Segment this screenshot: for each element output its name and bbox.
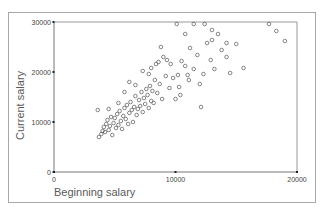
data-point — [148, 84, 152, 88]
data-point — [158, 82, 162, 86]
data-point — [109, 115, 113, 119]
data-point — [141, 69, 145, 73]
data-point — [169, 62, 173, 66]
data-point — [142, 96, 146, 100]
data-point — [165, 58, 169, 62]
data-point — [126, 122, 130, 126]
data-point — [213, 67, 217, 71]
data-point — [118, 109, 122, 113]
data-point — [141, 110, 145, 114]
data-point — [149, 99, 153, 103]
data-point — [111, 133, 115, 137]
data-point — [175, 22, 179, 26]
data-point — [120, 127, 124, 131]
data-point — [177, 85, 181, 89]
data-point — [187, 78, 191, 82]
data-point — [176, 73, 180, 77]
data-point — [160, 97, 164, 101]
data-point — [234, 42, 238, 46]
y-tick-label: 0 — [47, 169, 51, 176]
x-tick-label: 10000 — [166, 176, 186, 183]
data-point — [143, 102, 147, 106]
data-point — [180, 59, 184, 63]
data-point — [132, 105, 136, 109]
data-point — [157, 60, 161, 64]
x-tick-label: 0 — [52, 176, 56, 183]
data-point — [210, 38, 214, 42]
x-ticks: 01000020000 — [52, 171, 307, 183]
data-point — [183, 64, 187, 68]
data-point — [174, 97, 178, 101]
data-point — [220, 48, 224, 52]
y-tick-label: 30000 — [32, 19, 52, 26]
data-point — [119, 119, 123, 123]
data-point — [134, 83, 138, 87]
data-point — [149, 66, 153, 70]
y-axis-label: Current salary — [14, 71, 26, 140]
data-point — [192, 22, 196, 26]
data-point — [129, 100, 133, 104]
data-point — [162, 55, 166, 59]
data-point — [117, 101, 121, 105]
data-point — [186, 73, 190, 77]
data-point — [171, 76, 175, 80]
data-point — [198, 82, 202, 86]
scatter-points — [96, 22, 287, 139]
data-point — [153, 78, 157, 82]
data-point — [124, 117, 128, 121]
data-point — [147, 106, 151, 110]
data-point — [145, 87, 149, 91]
data-point — [138, 104, 142, 108]
y-tick-label: 10000 — [32, 119, 52, 126]
data-point — [146, 93, 150, 97]
x-axis-label: Beginning salary — [54, 186, 135, 198]
data-point — [108, 124, 112, 128]
data-point — [155, 91, 159, 95]
data-point — [107, 128, 111, 132]
data-point — [203, 22, 207, 26]
data-point — [123, 90, 127, 94]
data-point — [216, 32, 220, 36]
data-point — [275, 29, 279, 33]
data-point — [106, 118, 110, 122]
data-point — [128, 80, 132, 84]
data-point — [159, 45, 163, 49]
data-point — [168, 86, 172, 90]
data-point — [96, 108, 100, 112]
data-point — [225, 55, 229, 59]
data-point — [164, 74, 168, 78]
data-point — [267, 22, 271, 26]
y-tick-label: 20000 — [32, 69, 52, 76]
data-point — [283, 39, 287, 43]
data-point — [210, 28, 214, 32]
data-point — [209, 58, 213, 62]
data-point — [192, 67, 196, 71]
data-point — [125, 103, 129, 107]
data-point — [112, 121, 116, 125]
plot-area: 0100002000030000 01000020000 — [32, 19, 307, 184]
data-point — [242, 66, 246, 70]
data-point — [147, 72, 151, 76]
data-point — [135, 113, 139, 117]
data-point — [137, 98, 141, 102]
data-point — [205, 41, 209, 45]
data-point — [202, 72, 206, 76]
data-point — [228, 71, 232, 75]
data-point — [196, 53, 200, 57]
data-point — [107, 107, 111, 111]
data-point — [151, 89, 155, 93]
y-ticks: 0100002000030000 — [32, 19, 55, 176]
scatter-plot: 0100002000030000 01000020000 — [0, 0, 329, 209]
data-point — [154, 62, 158, 66]
data-point — [117, 123, 121, 127]
data-point — [152, 101, 156, 105]
data-point — [199, 105, 203, 109]
data-point — [183, 32, 187, 36]
data-point — [225, 41, 229, 45]
x-tick-label: 20000 — [287, 176, 307, 183]
data-point — [131, 120, 135, 124]
data-point — [113, 116, 117, 120]
data-point — [179, 93, 183, 97]
data-point — [134, 94, 138, 98]
data-point — [140, 90, 144, 94]
